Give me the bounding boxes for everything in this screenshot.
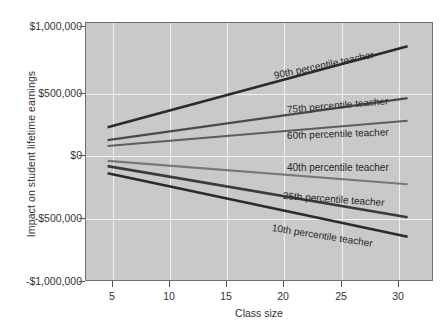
x-tick-label-25: 25 xyxy=(321,290,361,302)
x-tick-label-5: 5 xyxy=(92,290,132,302)
x-tick-label-15: 15 xyxy=(206,290,246,302)
x-tick-label-10: 10 xyxy=(149,290,189,302)
x-tick-mark-20 xyxy=(283,281,284,287)
x-tick-mark-15 xyxy=(226,281,227,287)
x-tick-mark-5 xyxy=(112,281,113,287)
series-label-40th: 40th percentile teacher xyxy=(287,162,389,173)
x-tick-mark-30 xyxy=(398,281,399,287)
x-tick-label-20: 20 xyxy=(263,290,303,302)
x-tick-mark-25 xyxy=(341,281,342,287)
x-axis-title: Class size xyxy=(85,307,433,319)
x-tick-mark-10 xyxy=(169,281,170,287)
x-tick-label-30: 30 xyxy=(378,290,418,302)
chart-figure: Impact on student lifetime earnings $1,0… xyxy=(0,0,440,324)
